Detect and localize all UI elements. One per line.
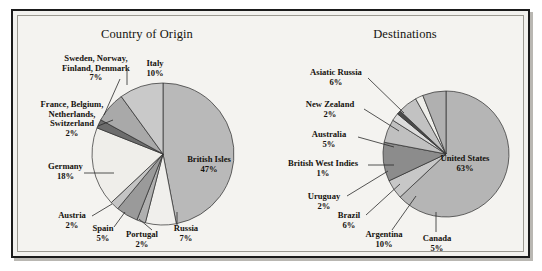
pie-label-australia: Australia 5%	[298, 130, 360, 149]
pie-label-uruguay: Uruguay 2%	[296, 192, 352, 211]
pie-label-united-states: United States 63%	[428, 154, 502, 173]
leader-line	[92, 204, 112, 216]
pie-label-spain: Spain 5%	[84, 224, 122, 243]
pie-label-argentina: Argentina 10%	[354, 230, 414, 249]
chart-panel-country-of-origin: Country of Origin Sweden, Norway, Finlan…	[18, 16, 276, 251]
pie-label-russia: Russia 7%	[165, 224, 207, 243]
leader-line	[366, 184, 400, 215]
pie-label-british-isles: British Isles 47%	[178, 155, 240, 174]
pie-label-germany: Germany 18%	[38, 162, 93, 181]
pie-label-asiatic-russia: Asiatic Russia 6%	[294, 68, 378, 87]
pie-label-canada: Canada 5%	[413, 234, 461, 253]
pie-label-france-belgium-netherlands-switzerland: France, Belgium, Netherlands, Switzerlan…	[22, 100, 122, 139]
pie-label-brazil: Brazil 6%	[327, 211, 371, 230]
pie-label-portugal: Portugal 2%	[118, 230, 166, 249]
figure-inner-frame: Country of Origin Sweden, Norway, Finlan…	[17, 15, 524, 252]
figure-frame: Country of Origin Sweden, Norway, Finlan…	[11, 9, 530, 258]
pie-label-british-west-indies: British West Indies 1%	[273, 159, 373, 178]
pie-label-new-zealand: New Zealand 2%	[290, 100, 370, 119]
chart-panel-destinations: Destinations Asiatic Russia 6% New Zeala…	[276, 16, 534, 251]
pie-label-italy: Italy 10%	[137, 59, 173, 78]
figure-root: Country of Origin Sweden, Norway, Finlan…	[0, 0, 542, 271]
